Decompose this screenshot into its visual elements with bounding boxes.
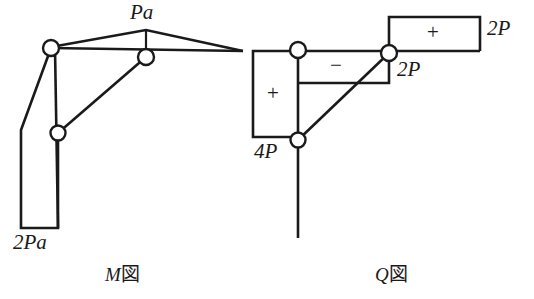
shear-middle-sign: − — [330, 55, 342, 76]
shear-diagram-caption: Q図 — [375, 265, 408, 284]
shear-hinge-top-left — [290, 42, 306, 58]
moment-diagram-caption: M図 — [105, 265, 140, 284]
shear-diagonal — [298, 53, 389, 140]
moment-diagonal — [58, 57, 146, 133]
shear-diagram-group — [253, 17, 480, 238]
shear-left-sign: + — [267, 83, 279, 104]
moment-base-label: 2Pa — [13, 232, 47, 253]
shear-mid-label: 2P — [397, 59, 420, 80]
shear-caption-symbol: Q — [375, 264, 389, 285]
moment-diagram-group — [21, 30, 243, 228]
figure-root: Pa 2Pa 2P 2P 4P + − + M図 Q図 — [0, 0, 534, 299]
shear-right-sign: + — [427, 22, 439, 43]
moment-caption-symbol: M — [105, 264, 121, 285]
moment-hinge-column — [51, 126, 66, 141]
shear-top-right-label: 2P — [487, 18, 510, 39]
moment-hinge-beam — [138, 49, 154, 65]
shear-hinge-column — [291, 133, 306, 148]
shear-hinge-beam — [381, 45, 397, 61]
shear-caption-suffix: 図 — [389, 263, 408, 285]
shear-left-base-label: 4P — [254, 141, 277, 162]
moment-caption-suffix: 図 — [121, 263, 140, 285]
moment-apex-label: Pa — [130, 2, 153, 23]
moment-hinge-top-left — [43, 40, 59, 56]
